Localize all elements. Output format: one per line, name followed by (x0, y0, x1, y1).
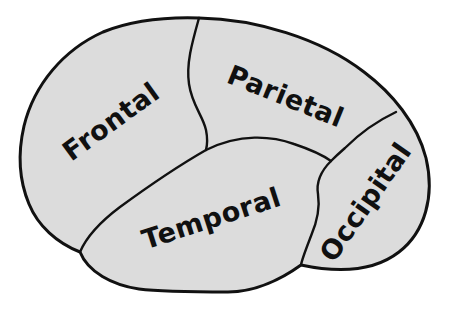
brain-lobes-diagram: Frontal Parietal Temporal Occipital (0, 0, 454, 318)
brain-diagram-svg: Frontal Parietal Temporal Occipital (0, 0, 454, 318)
